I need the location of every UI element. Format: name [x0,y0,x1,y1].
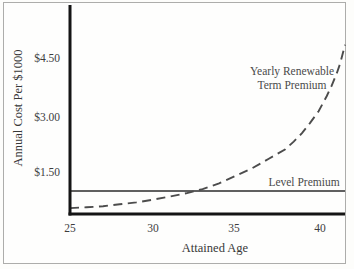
x-tick-35: 35 [228,222,240,234]
x-axis-title: Attained Age [182,241,249,255]
x-tick-30: 30 [147,222,159,234]
y-axis-title: Annual Cost Per $1000 [11,49,25,166]
figure-frame [4,3,346,264]
chart-figure: $1.50 $3.00 $4.50 Annual Cost Per $1000 … [0,0,354,269]
x-tick-40: 40 [314,222,326,234]
level-premium-label: Level Premium [268,176,339,188]
y-tick-3-00: $3.00 [34,111,60,123]
y-tick-4-50: $4.50 [34,52,60,64]
yrt-label-line2: Term Premium [257,79,326,91]
premium-comparison-chart: $1.50 $3.00 $4.50 Annual Cost Per $1000 … [0,0,354,269]
yrt-label-line1: Yearly Renewable [250,65,334,78]
y-tick-1-50: $1.50 [34,166,60,178]
x-tick-25: 25 [64,222,76,234]
